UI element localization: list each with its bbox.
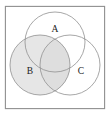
set-c-label: C <box>78 66 84 76</box>
set-a-label: A <box>52 24 59 34</box>
venn-diagram-canvas: A B C <box>0 0 110 115</box>
set-b-label: B <box>27 66 33 76</box>
venn-diagram-figure: A B C <box>0 0 110 115</box>
